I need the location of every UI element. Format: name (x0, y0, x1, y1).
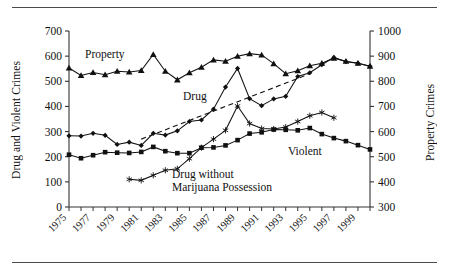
right-tick-label: 800 (378, 75, 396, 87)
left-tick-label: 500 (45, 75, 63, 87)
series-marker-drug (66, 133, 71, 138)
series-marker-property (294, 68, 301, 74)
figure-container: Drug and Violent Crimes Property Crimes … (0, 0, 449, 274)
series-marker-violent (332, 136, 337, 141)
series-marker-violent (103, 150, 108, 155)
x-tick-label: 1999 (335, 212, 358, 235)
series-marker-violent (247, 131, 252, 136)
series-marker-drug-without-marijuana-possession (295, 118, 300, 124)
series-marker-violent (115, 150, 120, 155)
series-marker-property (90, 69, 97, 75)
x-tick-label: 1977 (70, 212, 93, 235)
series-marker-drug (235, 66, 240, 71)
x-tick-label: 1983 (142, 212, 165, 235)
series-marker-property (198, 64, 205, 70)
series-marker-property (174, 77, 181, 83)
series-marker-drug (271, 96, 276, 101)
series-label-drug-without-marijuana: Drug without Marijuana Possession (172, 168, 272, 194)
series-marker-property (150, 51, 157, 57)
series-marker-drug-without-marijuana-possession (211, 136, 216, 142)
x-tick-label: 1989 (214, 212, 237, 235)
series-line-violent (69, 128, 370, 158)
series-marker-violent (187, 151, 192, 156)
right-tick-label: 700 (378, 100, 396, 112)
x-tick-label: 1981 (118, 212, 141, 235)
series-marker-violent (223, 143, 228, 148)
dwmp-line-2: Marijuana Possession (172, 181, 272, 194)
left-tick-label: 100 (45, 176, 63, 188)
series-marker-drug (223, 84, 228, 89)
series-marker-drug (127, 140, 132, 145)
series-marker-drug (90, 131, 95, 136)
x-tick-label: 1991 (238, 212, 261, 235)
left-tick-label: 0 (56, 201, 62, 213)
series-marker-violent (211, 145, 216, 150)
left-tick-label: 400 (45, 100, 63, 112)
series-marker-violent (91, 153, 96, 158)
series-marker-violent (368, 147, 373, 152)
series-marker-violent (308, 126, 313, 131)
series-marker-violent (320, 132, 325, 137)
series-marker-property (246, 50, 253, 56)
left-tick-label: 700 (45, 25, 63, 37)
series-marker-drug (259, 103, 264, 108)
series-marker-property (210, 57, 217, 63)
x-tick-label: 1995 (287, 212, 310, 235)
series-label-violent: Violent (288, 145, 322, 157)
right-tick-label: 300 (378, 201, 396, 213)
series-label-drug: Drug (183, 90, 207, 102)
right-tick-label: 500 (378, 151, 396, 163)
series-marker-drug (247, 96, 252, 101)
right-tick-label: 400 (378, 176, 396, 188)
series-marker-drug-without-marijuana-possession (151, 172, 156, 178)
x-tick-label: 1979 (94, 212, 117, 235)
x-tick-label: 1987 (190, 212, 213, 235)
left-tick-label: 600 (45, 50, 63, 62)
series-line-drug (69, 57, 370, 145)
series-marker-violent (295, 128, 300, 133)
series-marker-drug (295, 74, 300, 79)
series-marker-drug-without-marijuana-possession (331, 115, 336, 121)
series-marker-violent (344, 139, 349, 144)
right-tick-label: 900 (378, 50, 396, 62)
series-marker-drug (283, 94, 288, 99)
series-marker-violent (163, 149, 168, 154)
dwmp-line-1: Drug without (172, 168, 272, 181)
series-marker-property (66, 65, 73, 71)
x-tick-label: 1997 (311, 212, 334, 235)
series-marker-drug (163, 132, 168, 137)
series-label-property: Property (85, 48, 125, 60)
x-tick-label: 1993 (263, 212, 286, 235)
right-tick-label: 1000 (378, 25, 401, 37)
x-tick-label: 1975 (46, 212, 69, 235)
plot-area: 0100200300400500600700300400500600700800… (0, 0, 449, 274)
left-tick-label: 300 (45, 126, 63, 138)
right-tick-label: 600 (378, 126, 396, 138)
series-marker-violent (67, 152, 72, 157)
series-marker-drug (78, 133, 83, 138)
chart-svg: 0100200300400500600700300400500600700800… (0, 0, 449, 274)
left-tick-label: 200 (45, 151, 63, 163)
series-marker-violent (127, 151, 132, 156)
series-marker-violent (79, 156, 84, 161)
series-marker-property (186, 70, 193, 76)
series-marker-violent (356, 143, 361, 148)
series-marker-violent (151, 145, 156, 150)
series-marker-violent (139, 150, 144, 155)
x-tick-label: 1985 (166, 212, 189, 235)
series-marker-drug-without-marijuana-possession (223, 127, 228, 133)
series-marker-violent (175, 151, 180, 156)
series-marker-violent (235, 138, 240, 143)
